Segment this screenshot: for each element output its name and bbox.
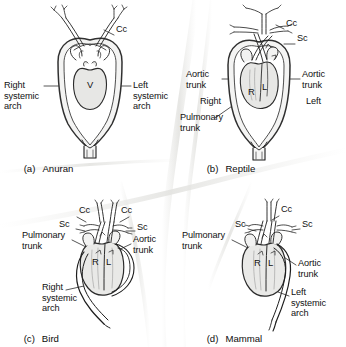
caption-c-tag: (c) — [24, 333, 35, 344]
label-b-aortic-trunk-left: Aortic trunk — [186, 69, 209, 90]
leader-cc-d — [272, 216, 279, 220]
caption-b: (b)Reptile — [196, 152, 255, 185]
label-d-sc-left: Sc — [235, 219, 246, 230]
chamber-d-right-ventricle: R — [254, 257, 261, 268]
label-d-left-systemic-arch: Left systemic arch — [291, 287, 326, 319]
label-b-cc: Cc — [286, 18, 297, 29]
label-b-aortic-trunk-right: Aortic trunk — [302, 69, 325, 90]
label-c-right-systemic-arch: Right systemic arch — [42, 282, 77, 314]
label-c-pulmonary-trunk: Pulmonary trunk — [22, 230, 65, 251]
label-d-sc-right: Sc — [302, 219, 313, 230]
caption-d-tag: (d) — [207, 333, 219, 344]
leader-sc-right-d — [292, 229, 300, 230]
caption-c: (c)Bird — [13, 322, 59, 347]
label-c-sc-right: Sc — [137, 222, 148, 233]
chamber-a-ventricle: V — [87, 79, 93, 90]
label-c-cc-left: Cc — [79, 205, 90, 216]
label-a-left-systemic-arch: Left systemic arch — [133, 80, 168, 112]
label-b-left: Left — [306, 96, 321, 107]
label-d-cc: Cc — [281, 204, 292, 215]
label-c-cc-right: Cc — [121, 205, 132, 216]
leader-left-systemic-d — [278, 292, 289, 296]
caption-a: (a)Anuran — [13, 152, 73, 185]
chamber-c-left-ventricle: L — [106, 256, 111, 267]
heart-body-d — [242, 243, 286, 296]
chamber-c-right-ventricle: R — [92, 256, 99, 267]
figure-comparative-hearts: Cc Right systemic arch Left systemic arc… — [0, 0, 346, 347]
caption-b-name: Reptile — [225, 163, 255, 174]
chamber-b-right-ventricle: R — [248, 86, 255, 97]
caption-a-tag: (a) — [24, 163, 36, 174]
label-a-right-systemic-arch: Right systemic arch — [4, 80, 39, 112]
caption-d: (d)Mammal — [196, 322, 262, 347]
chamber-b-left-ventricle: L — [262, 81, 267, 92]
caption-c-name: Bird — [42, 333, 59, 344]
label-c-sc-left: Sc — [59, 219, 70, 230]
label-b-pulmonary-trunk: Pulmonary trunk — [180, 112, 223, 133]
label-c-aortic-trunk: Aortic trunk — [133, 234, 156, 255]
label-d-pulmonary-trunk: Pulmonary trunk — [182, 230, 225, 251]
label-d-aortic-trunk: Aortic trunk — [298, 258, 321, 279]
caption-d-name: Mammal — [225, 333, 262, 344]
caption-b-tag: (b) — [207, 163, 219, 174]
caption-a-name: Anuran — [42, 163, 73, 174]
label-b-right: Right — [200, 96, 221, 107]
chamber-d-left-ventricle: L — [268, 257, 273, 268]
label-a-cc: Cc — [116, 24, 127, 35]
label-b-sc: Sc — [297, 33, 308, 44]
